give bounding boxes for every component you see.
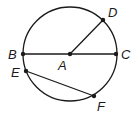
point-f [92, 94, 96, 98]
point-a [68, 52, 72, 56]
point-e [24, 69, 28, 73]
label-e: E [11, 65, 20, 80]
label-f: F [97, 99, 106, 114]
label-a: A [57, 58, 67, 73]
label-d: D [108, 5, 117, 20]
point-b [21, 52, 25, 56]
label-c: C [121, 47, 131, 62]
radius-ad [70, 20, 103, 54]
point-c [114, 52, 118, 56]
point-d [101, 18, 105, 22]
label-b: B [8, 47, 17, 62]
chord-ef [26, 71, 94, 96]
circle-diagram: A B C D E F [0, 0, 138, 119]
